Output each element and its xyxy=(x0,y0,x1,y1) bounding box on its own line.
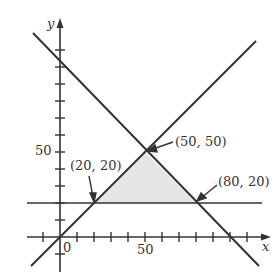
y-axis-arrow-icon xyxy=(57,18,64,28)
y-tick-label-50: 50 xyxy=(35,143,52,158)
vertex-label-50-50: (50, 50) xyxy=(175,134,227,149)
x-axis-label: x xyxy=(262,239,270,254)
vertex-label-80-20: (80, 20) xyxy=(218,174,270,189)
origin-label: 0 xyxy=(63,240,71,255)
y-axis-label: y xyxy=(46,16,55,31)
line-y-equals-x xyxy=(31,41,256,266)
x-tick-label-50: 50 xyxy=(137,242,154,257)
vertex-label-20-20: (20, 20) xyxy=(70,158,122,173)
feasible-region-diagram: y x 0 50 50 (20, 20) (50, 50) (80, 20) xyxy=(0,0,275,280)
